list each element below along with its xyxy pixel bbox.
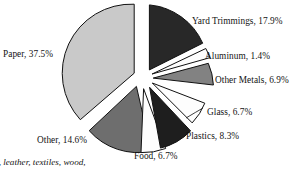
pie-label-other: Other, 14.6% [37,136,87,145]
pie-label-food: Food, 6.7% [134,152,178,161]
pie-label-yard-trimmings: Yard Trimmings, 17.9% [192,17,283,26]
pie-chart-figure: Yard Trimmings, 17.9% Aluminum, 1.4% Oth… [0,0,304,171]
pie-label-paper: Paper, 37.5% [3,50,53,59]
pie-label-aluminum: Aluminum, 1.4% [205,52,270,61]
pie-label-plastics: Plastics, 8.3% [186,132,239,141]
chart-footnote: er, leather, textiles, wood, [0,158,86,167]
pie-slice-other-metals[interactable] [153,63,213,85]
pie-label-glass: Glass, 6.7% [207,108,252,117]
pie-label-other-metals: Other Metals, 6.9% [215,76,289,85]
